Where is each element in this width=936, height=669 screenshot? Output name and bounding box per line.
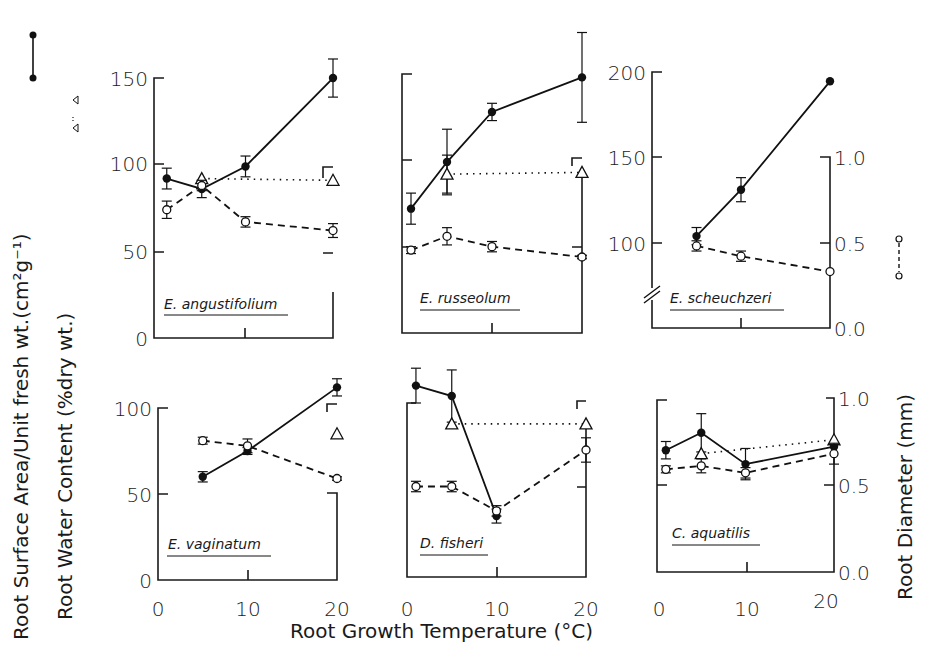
svg-text:50: 50 xyxy=(127,483,152,507)
svg-text:1.0: 1.0 xyxy=(838,387,870,411)
svg-text:1.0: 1.0 xyxy=(834,146,866,170)
svg-text:0: 0 xyxy=(152,597,165,621)
svg-text:20: 20 xyxy=(324,597,349,621)
water-content-series xyxy=(331,428,343,439)
water-content-series xyxy=(441,155,588,193)
surface-area-series xyxy=(411,368,502,523)
svg-text:10: 10 xyxy=(235,597,260,621)
svg-text:0: 0 xyxy=(135,327,148,351)
svg-text:10: 10 xyxy=(484,597,509,621)
svg-text:Root Surface Area/Unit fresh w: Root Surface Area/Unit fresh wt.(cm²g⁻¹) xyxy=(9,233,33,640)
species-label: E. vaginatum xyxy=(168,536,261,552)
x-title: Root Growth Temperature (°C) xyxy=(290,619,593,643)
svg-text:150: 150 xyxy=(608,146,646,170)
svg-text:50: 50 xyxy=(123,240,148,264)
species-label: D. fisheri xyxy=(420,535,483,551)
surface-area-series xyxy=(198,379,342,482)
y-title-root-diameter: Root Diameter (mm) xyxy=(893,394,917,600)
svg-text:200: 200 xyxy=(608,61,646,85)
svg-text:100: 100 xyxy=(114,397,152,421)
surface-area-series xyxy=(406,33,587,225)
svg-text:20: 20 xyxy=(573,597,598,621)
surface-area-series xyxy=(692,77,835,245)
panel-c-aquatilis: 1.0 0.5 0.0 0 10 20 C. aquatilis xyxy=(653,387,870,621)
diameter-series xyxy=(198,437,342,483)
legend-root-diameter-icon xyxy=(896,236,902,279)
svg-text:0.0: 0.0 xyxy=(838,561,870,585)
legend-water-content-icon xyxy=(73,96,78,132)
data-series-layer xyxy=(162,33,840,524)
svg-text:Root Water Content (%dry wt.): Root Water Content (%dry wt.) xyxy=(53,313,77,620)
water-content-series xyxy=(695,434,840,459)
svg-text:0: 0 xyxy=(401,597,414,621)
y-title-water-content: Root Water Content (%dry wt.) xyxy=(53,313,77,620)
surface-area-series xyxy=(162,59,338,198)
diameter-series xyxy=(162,180,338,237)
svg-text:0.5: 0.5 xyxy=(838,474,870,498)
water-content-series xyxy=(196,173,339,186)
svg-text:0.0: 0.0 xyxy=(834,317,866,341)
y-title-surface-area: Root Surface Area/Unit fresh wt.(cm²g⁻¹) xyxy=(9,233,33,640)
panel-e-angustifolium: 150 100 50 0 E. angustifolium xyxy=(110,67,333,351)
species-label: E. angustifolium xyxy=(164,296,277,312)
panel-e-scheuchzeri: 200 150 100 1.0 0.5 0.0 E. scheuchzeri xyxy=(608,61,866,341)
diameter-series xyxy=(406,228,587,261)
svg-text:Root Diameter (mm): Root Diameter (mm) xyxy=(893,394,917,600)
svg-text:100: 100 xyxy=(608,232,646,256)
svg-text:100: 100 xyxy=(110,152,148,176)
surface-area-series xyxy=(661,414,838,480)
panel-e-vaginatum: 100 50 0 0 10 20 E. vaginatum xyxy=(114,397,350,621)
legend-surface-area-icon xyxy=(30,32,37,82)
diameter-series xyxy=(692,241,835,276)
svg-text:0: 0 xyxy=(139,569,152,593)
svg-text:20: 20 xyxy=(813,589,838,613)
figure-canvas: Root Surface Area/Unit fresh wt.(cm²g⁻¹)… xyxy=(0,0,936,669)
svg-text:Root Growth Temperature (°C): Root Growth Temperature (°C) xyxy=(290,619,593,643)
svg-text:0.5: 0.5 xyxy=(834,232,866,256)
svg-text:0: 0 xyxy=(653,597,666,621)
species-label: C. aquatilis xyxy=(672,525,750,541)
species-label: E. scheuchzeri xyxy=(670,290,771,306)
svg-text:150: 150 xyxy=(110,67,148,91)
species-label: E. russeolum xyxy=(420,290,511,306)
svg-text:10: 10 xyxy=(734,597,759,621)
diameter-series xyxy=(411,438,591,516)
water-content-series xyxy=(446,418,592,429)
